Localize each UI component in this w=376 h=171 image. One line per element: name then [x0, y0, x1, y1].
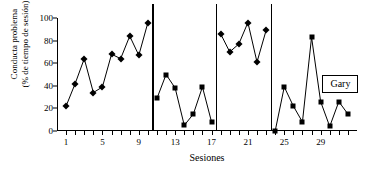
x-tick-label: 17: [207, 137, 216, 147]
x-tick-mark: [102, 131, 103, 135]
y-axis-title-line2: (% de tiempo de sesión): [20, 0, 31, 110]
x-tick-mark: [221, 131, 222, 135]
x-tick-label: 21: [243, 137, 252, 147]
x-tick-label: 13: [171, 137, 180, 147]
x-tick-mark: [84, 131, 85, 135]
y-tick-label: 100: [40, 13, 54, 23]
x-tick-mark: [130, 131, 131, 135]
x-tick-mark: [239, 131, 240, 135]
x-tick-mark: [166, 131, 167, 135]
x-tick-mark: [202, 131, 203, 135]
y-axis-title: Conducta problema (% de tiempo de sesión…: [9, 0, 33, 110]
y-tick-mark: [53, 131, 57, 132]
data-point-marker: [282, 84, 287, 89]
data-point-marker: [173, 86, 178, 91]
subject-label-box: Gary: [322, 75, 358, 93]
y-tick-mark: [53, 40, 57, 41]
y-tick-label: 80: [44, 36, 53, 46]
x-tick-label: 1: [64, 137, 69, 147]
y-tick-label: 60: [44, 58, 53, 68]
x-tick-mark: [66, 131, 67, 135]
x-tick-mark: [175, 131, 176, 135]
data-point-marker: [209, 119, 214, 124]
data-point-marker: [155, 96, 160, 101]
data-point-marker: [327, 124, 332, 129]
x-tick-mark: [266, 131, 267, 135]
x-tick-mark: [75, 131, 76, 135]
x-tick-mark: [330, 131, 331, 135]
y-tick-mark: [53, 108, 57, 109]
x-tick-mark: [257, 131, 258, 135]
x-axis-title: Sesiones: [57, 152, 357, 163]
x-tick-mark: [157, 131, 158, 135]
y-tick-mark: [53, 63, 57, 64]
data-point-marker: [291, 104, 296, 109]
x-tick-mark: [93, 131, 94, 135]
x-tick-mark: [302, 131, 303, 135]
x-tick-mark: [348, 131, 349, 135]
data-point-marker: [345, 112, 350, 117]
x-tick-mark: [321, 131, 322, 135]
phase-divider-line: [216, 4, 217, 131]
phase-divider-line: [271, 4, 272, 131]
phase-divider-line: [152, 4, 153, 131]
data-point-marker: [164, 72, 169, 77]
data-point-marker: [191, 112, 196, 117]
y-tick-label: 20: [44, 103, 53, 113]
x-tick-mark: [212, 131, 213, 135]
data-point-marker: [200, 84, 205, 89]
x-tick-mark: [293, 131, 294, 135]
y-tick-mark: [53, 18, 57, 19]
data-point-marker: [182, 123, 187, 128]
x-tick-mark: [148, 131, 149, 135]
x-tick-mark: [193, 131, 194, 135]
y-tick-mark: [53, 85, 57, 86]
data-point-marker: [336, 99, 341, 104]
data-point-marker: [318, 99, 323, 104]
y-axis-title-line1: Conducta problema: [9, 0, 20, 110]
x-tick-label: 25: [280, 137, 289, 147]
x-tick-mark: [312, 131, 313, 135]
plot-area: 0204060801001591317212529No EENo EEGary: [57, 18, 357, 131]
data-point-marker: [309, 35, 314, 40]
x-tick-mark: [284, 131, 285, 135]
x-tick-mark: [112, 131, 113, 135]
chart-figure: Conducta problema (% de tiempo de sesión…: [0, 0, 376, 171]
x-tick-mark: [121, 131, 122, 135]
x-tick-label: 29: [316, 137, 325, 147]
y-tick-label: 40: [44, 81, 53, 91]
x-tick-mark: [139, 131, 140, 135]
x-tick-label: 5: [100, 137, 105, 147]
data-point-marker: [273, 129, 278, 134]
x-tick-mark: [184, 131, 185, 135]
x-tick-mark: [230, 131, 231, 135]
x-tick-mark: [248, 131, 249, 135]
x-tick-label: 9: [137, 137, 142, 147]
data-point-marker: [300, 119, 305, 124]
x-tick-mark: [339, 131, 340, 135]
